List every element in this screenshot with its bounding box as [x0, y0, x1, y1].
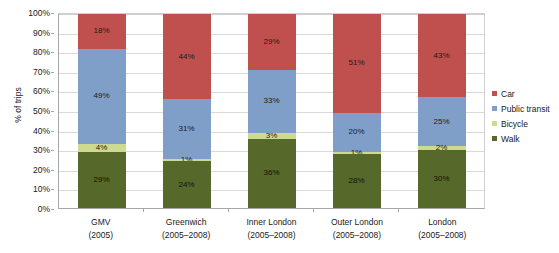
x-axis-label-line2: (2005–2008) [400, 229, 485, 242]
bar-segment[interactable]: 49% [78, 49, 126, 144]
y-tick-label: 60% [33, 86, 50, 96]
legend-label: Car [501, 89, 515, 99]
bar-segment-value-label: 18% [93, 27, 109, 35]
bar-segment[interactable]: 4% [78, 144, 126, 152]
y-tick-label: 90% [33, 28, 50, 38]
bar-segment-value-label: 4% [96, 144, 108, 152]
x-axis-label-line2: (2005–2008) [314, 229, 399, 242]
bar-segment-value-label: 30% [433, 175, 449, 183]
bar-segment-value-label: 25% [433, 118, 449, 126]
y-tick-label: 70% [33, 67, 50, 77]
bar-slot: 18%49%4%29% [59, 14, 144, 208]
bars-layer: 18%49%4%29%44%31%1%24%29%33%3%36%51%20%1… [59, 14, 484, 208]
x-axis-label-line1: GMV [91, 217, 110, 227]
y-tick-label: 100% [28, 8, 50, 18]
x-axis-label-line2: (2005–2008) [143, 229, 228, 242]
x-tick-mark [228, 208, 229, 212]
bar-segment-value-label: 20% [348, 128, 364, 136]
y-tick-label: 50% [33, 106, 50, 116]
bar-segment-value-label: 28% [348, 177, 364, 185]
y-tick-mark [51, 52, 54, 53]
y-tick-mark [51, 72, 54, 73]
stacked-bar[interactable]: 44%31%1%24% [163, 14, 211, 208]
y-tick-label: 10% [33, 184, 50, 194]
bar-segment[interactable]: 44% [163, 14, 211, 99]
x-axis-label: Inner London(2005–2008) [229, 216, 314, 250]
x-tick-mark [398, 208, 399, 212]
bar-segment[interactable]: 43% [418, 14, 466, 97]
y-tick-label: 0% [38, 204, 50, 214]
y-tick-mark [51, 209, 54, 210]
bar-segment-value-label: 29% [93, 176, 109, 184]
x-axis-label: Outer London(2005–2008) [314, 216, 399, 250]
y-tick-label: 40% [33, 126, 50, 136]
x-axis-label: GMV(2005) [58, 216, 143, 250]
x-axis-label-line2: (2005) [58, 229, 143, 242]
legend-swatch-icon [492, 136, 497, 141]
y-tick-mark [51, 13, 54, 14]
bar-segment-value-label: 33% [263, 97, 279, 105]
y-tick-mark [51, 111, 54, 112]
bar-segment[interactable]: 18% [78, 14, 126, 49]
x-axis-label-line1: Inner London [246, 217, 296, 227]
y-tick-mark [51, 189, 54, 190]
bar-slot: 51%20%1%28% [314, 14, 399, 208]
bar-slot: 29%33%3%36% [229, 14, 314, 208]
legend-label: Public transit [501, 104, 550, 114]
bar-segment[interactable]: 36% [248, 139, 296, 208]
legend-item[interactable]: Bicycle [492, 116, 558, 131]
y-tick-label: 80% [33, 47, 50, 57]
legend-label: Walk [501, 134, 520, 144]
bar-segment[interactable]: 28% [333, 154, 381, 208]
x-tick-mark [143, 208, 144, 212]
legend-swatch-icon [492, 91, 497, 96]
bar-slot: 43%25%2%30% [399, 14, 484, 208]
bar-segment[interactable]: 25% [418, 97, 466, 146]
x-axis-label: London(2005–2008) [400, 216, 485, 250]
x-axis-label-line1: Greenwich [166, 217, 207, 227]
x-axis-label-line1: Outer London [331, 217, 383, 227]
x-axis-labels: GMV(2005)Greenwich(2005–2008)Inner Londo… [58, 216, 485, 250]
bar-segment-value-label: 44% [178, 53, 194, 61]
bar-segment-value-label: 43% [433, 52, 449, 60]
legend-item[interactable]: Car [492, 86, 558, 101]
bar-segment-value-label: 51% [348, 59, 364, 67]
bar-segment[interactable]: 31% [163, 99, 211, 159]
x-axis-label-line1: London [428, 217, 456, 227]
stacked-bar[interactable]: 51%20%1%28% [333, 14, 381, 208]
bar-segment[interactable]: 51% [333, 14, 381, 113]
y-tick-mark [51, 131, 54, 132]
bar-segment-value-label: 31% [178, 125, 194, 133]
bar-segment[interactable]: 24% [163, 161, 211, 208]
bar-segment[interactable]: 33% [248, 70, 296, 133]
plot-area: 18%49%4%29%44%31%1%24%29%33%3%36%51%20%1… [58, 13, 485, 209]
y-tick-mark [51, 33, 54, 34]
stacked-bar-chart: % of trips 100%90%80%70%60%50%40%30%20%1… [0, 0, 559, 253]
y-tick-label: 20% [33, 165, 50, 175]
y-tick-mark [51, 91, 54, 92]
y-axis-ticks: 100%90%80%70%60%50%40%30%20%10%0% [0, 13, 54, 209]
x-tick-mark [313, 208, 314, 212]
bar-slot: 44%31%1%24% [144, 14, 229, 208]
stacked-bar[interactable]: 29%33%3%36% [248, 14, 296, 208]
bar-segment[interactable]: 29% [78, 152, 126, 208]
y-tick-mark [51, 150, 54, 151]
legend-swatch-icon [492, 106, 497, 111]
legend-item[interactable]: Walk [492, 131, 558, 146]
bar-segment[interactable]: 30% [418, 150, 466, 208]
legend-label: Bicycle [501, 119, 528, 129]
bar-segment-value-label: 49% [93, 92, 109, 100]
legend-item[interactable]: Public transit [492, 101, 558, 116]
stacked-bar[interactable]: 18%49%4%29% [78, 14, 126, 208]
y-tick-label: 30% [33, 145, 50, 155]
bar-segment-value-label: 24% [178, 181, 194, 189]
bar-segment[interactable]: 20% [333, 113, 381, 152]
y-tick-mark [51, 170, 54, 171]
x-axis-label-line2: (2005–2008) [229, 229, 314, 242]
stacked-bar[interactable]: 43%25%2%30% [418, 14, 466, 208]
chart-legend: CarPublic transitBicycleWalk [492, 86, 558, 146]
bar-segment-value-label: 36% [263, 169, 279, 177]
bar-segment[interactable]: 29% [248, 14, 296, 70]
bar-segment-value-label: 29% [263, 38, 279, 46]
legend-swatch-icon [492, 121, 497, 126]
